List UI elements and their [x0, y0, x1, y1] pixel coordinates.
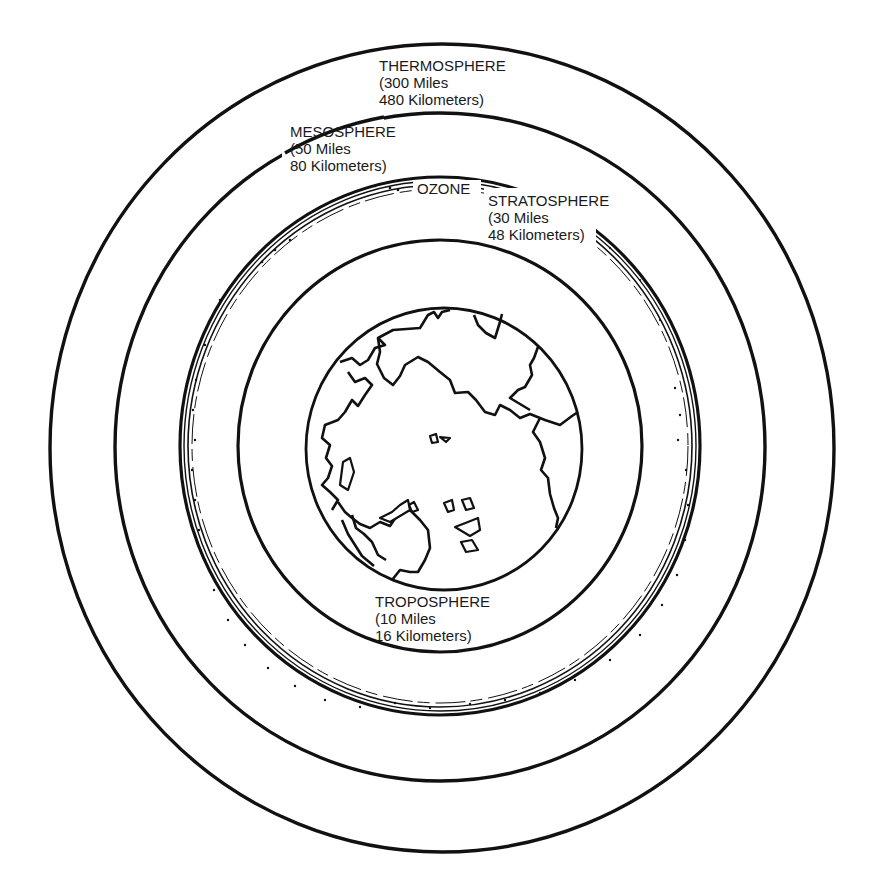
- troposphere-label: TROPOSPHERE (10 Miles 16 Kilometers): [375, 593, 490, 644]
- layer-height-km: 16 Kilometers): [375, 627, 490, 644]
- thermosphere-ring: [50, 44, 834, 852]
- layer-height-miles: (50 Miles: [290, 140, 396, 157]
- ozone-text: OZONE: [417, 180, 470, 197]
- layer-name: STRATOSPHERE: [488, 192, 609, 209]
- mesosphere-label: MESOSPHERE (50 Miles 80 Kilometers): [290, 123, 396, 174]
- layer-height-km: 80 Kilometers): [290, 157, 396, 174]
- thermosphere-label: THERMOSPHERE (300 Miles 480 Kilometers): [379, 57, 506, 108]
- mesosphere-ring: [115, 113, 765, 781]
- stratosphere-label: STRATOSPHERE (30 Miles 48 Kilometers): [488, 192, 609, 243]
- layer-name: TROPOSPHERE: [375, 593, 490, 610]
- layer-height-miles: (300 Miles: [379, 74, 506, 91]
- atmosphere-diagram: [0, 0, 879, 892]
- layer-height-miles: (30 Miles: [488, 209, 609, 226]
- layer-name: MESOSPHERE: [290, 123, 396, 140]
- ozone-label: OZONE: [417, 180, 470, 197]
- layer-height-km: 480 Kilometers): [379, 91, 506, 108]
- layer-height-km: 48 Kilometers): [488, 226, 609, 243]
- layer-name: THERMOSPHERE: [379, 57, 506, 74]
- earth: [306, 308, 582, 590]
- layer-height-miles: (10 Miles: [375, 610, 490, 627]
